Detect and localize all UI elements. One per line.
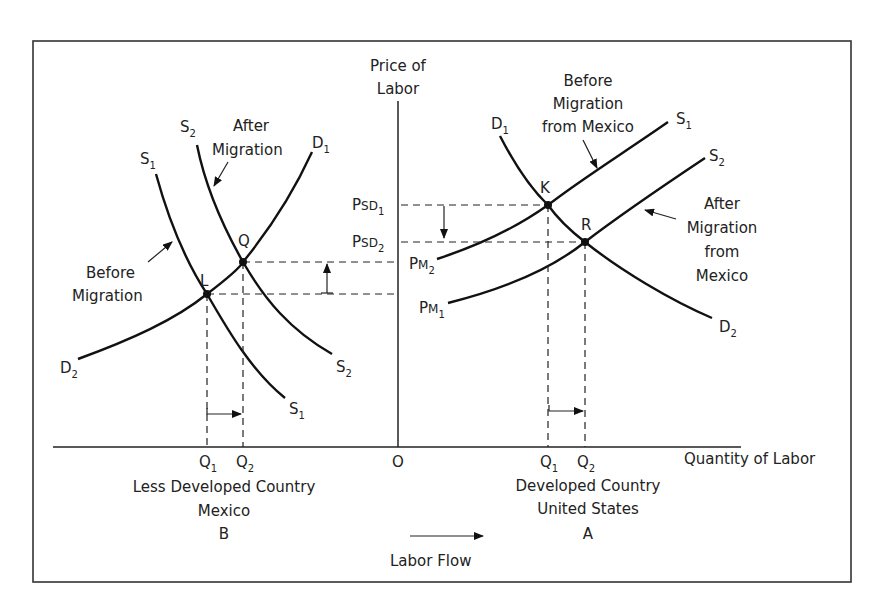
after-migration-us-pointer	[645, 210, 676, 219]
mexico-s2-bottom-label: S2	[336, 358, 352, 379]
us-s2-label: S2	[709, 147, 725, 168]
y-axis-label-line1: Price of	[370, 57, 427, 75]
after-migration-line1: After	[233, 117, 270, 135]
migration-diagram: S1 S2 After Migration D1 Q L Before Migr…	[0, 0, 876, 606]
us-d1-label: D1	[491, 115, 509, 136]
mexico-d2-label: D2	[60, 359, 78, 380]
us-before-line1: Before	[563, 72, 612, 90]
us-before-line2: Migration	[553, 95, 624, 113]
point-q-label: Q	[238, 232, 250, 250]
y-axis-label-line2: Labor	[377, 80, 420, 98]
after-migration-line2: Migration	[212, 141, 283, 159]
before-migration-pointer	[148, 242, 172, 262]
point-r-label: R	[581, 216, 591, 234]
psd1-label: PSD1	[352, 196, 384, 217]
us-s1-curve	[437, 122, 668, 259]
point-k-label: K	[540, 179, 551, 197]
us-after-line1: After	[704, 195, 741, 213]
us-after-line4: Mexico	[696, 267, 748, 285]
mexico-d1-label: D1	[312, 134, 330, 155]
x-axis-label: Quantity of Labor	[684, 450, 816, 468]
mexico-s2-label: S2	[180, 118, 196, 139]
mexico-s1-bottom-label: S1	[289, 400, 305, 421]
pm1-label: PM1	[419, 299, 445, 320]
mexico-quantity-shift-arrow	[207, 408, 241, 414]
us-after-line2: Migration	[687, 219, 758, 237]
labor-flow-label: Labor Flow	[390, 552, 471, 570]
us-s1-label: S1	[676, 110, 692, 131]
mexico-q2-tick: Q2	[236, 453, 254, 474]
mexico-s1-curve	[156, 174, 285, 398]
us-country-letter: A	[583, 525, 594, 543]
mexico-country-line2: Mexico	[198, 502, 250, 520]
point-q	[239, 258, 247, 266]
us-q1-tick: Q1	[540, 453, 558, 474]
mexico-s2-curve	[197, 145, 332, 354]
point-l-label: L	[200, 272, 209, 290]
us-d2-label: D2	[719, 318, 737, 339]
us-q2-tick: Q2	[577, 453, 595, 474]
mexico-country-letter: B	[219, 525, 229, 543]
us-country-line2: United States	[537, 500, 639, 518]
mexico-s1-label: S1	[140, 150, 156, 171]
origin-label: O	[392, 453, 404, 471]
mexico-country-line1: Less Developed Country	[133, 478, 316, 496]
us-s2-curve	[448, 158, 705, 303]
point-l	[203, 290, 211, 298]
after-migration-pointer	[214, 162, 228, 186]
point-k	[544, 201, 552, 209]
before-migration-us-pointer	[583, 140, 597, 168]
mexico-q1-tick: Q1	[199, 453, 217, 474]
mexico-demand-curve	[78, 152, 312, 359]
us-after-line3: from	[705, 243, 740, 261]
us-quantity-shift-arrow	[549, 405, 583, 411]
before-migration-line2: Migration	[72, 287, 143, 305]
psd2-label: PSD2	[352, 233, 384, 254]
us-before-line3: from Mexico	[542, 118, 634, 136]
before-migration-line1: Before	[86, 264, 135, 282]
point-r	[581, 238, 589, 246]
pm2-label: PM2	[409, 255, 435, 276]
us-country-line1: Developed Country	[516, 477, 661, 495]
